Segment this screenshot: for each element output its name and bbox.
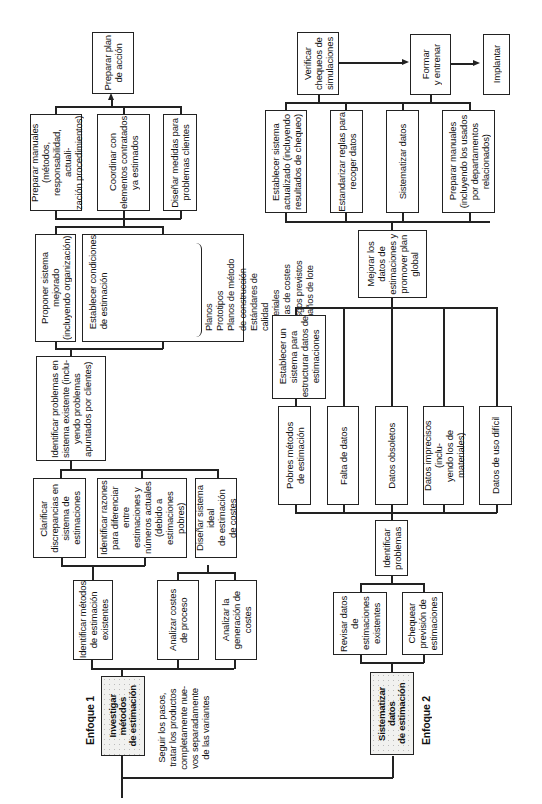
problem-obsolete-data-box: Datos obsoletos [375,406,408,505]
connector [496,307,498,406]
connector [345,212,347,222]
establish-structure-system-box: Establecer un sistema para estructurar d… [272,315,326,399]
connector [180,106,182,114]
connector [285,102,470,104]
connector [177,660,179,669]
connector [391,575,393,584]
implement-box: Implantar [483,34,510,95]
estimation-conditions-box: Establecer condiciones de estimación Pla… [82,234,244,342]
analyze-process-costs-box: Analizar costes de proceso [157,580,199,660]
coordinate-elements-box: Coordinar con elementos contratados ya e… [97,114,150,211]
connector [391,504,393,513]
prepare-manuals-box: Preparar manuales (métodos, responsabili… [30,114,82,211]
standardize-rules-box: Estandarizar reglas para recoger datos [330,110,363,213]
problem-hard-to-use-data-box: Datos de uso difícil [479,406,512,505]
connector [295,512,497,514]
connector [121,777,393,779]
connector [295,398,297,406]
connector [55,226,57,234]
connector [177,572,179,580]
connector [402,212,404,222]
connector [295,307,497,309]
verify-simulations-box: Verificar chequeos de simulaciones [297,32,339,95]
arrow-right-icon [402,59,409,65]
connector [91,660,93,669]
connector [144,557,146,566]
approach1-note: Seguir los pasos, tratar los productos c… [148,678,218,778]
connector [391,664,393,672]
propose-improved-system-box: Proponer sistema mejorado (incluyendo or… [35,234,76,342]
connector [123,210,125,219]
connector [162,226,164,234]
check-estimation-forecast-box: Chequear previsión de estimaciones [402,592,443,655]
problem-poor-methods-box: Pobres métodos de estimación [278,406,311,505]
connector [92,565,94,573]
connector [285,212,287,222]
connector [55,106,57,114]
design-client-measures-box: Diseñar medidas para problemas clientes [163,114,197,211]
connector [61,565,145,567]
train-box: Formar y entrenar [410,34,451,95]
connector [443,504,445,513]
problem-imprecise-data-box: Datos imprecisos (inclu- yendo los de ma… [423,406,464,505]
connector [318,94,320,103]
connector [141,469,143,478]
connector [391,298,393,308]
connector [234,572,236,580]
connector [345,102,347,110]
connector [180,210,182,219]
connector [123,106,125,114]
identify-problems-existing-box: Identificar problemas en sistema existen… [36,356,106,461]
connector [391,222,393,230]
connector [285,221,490,223]
approach1-label: Enfoque 1 [80,690,100,750]
identify-problems-box: Identificar problemas [375,520,408,576]
connector [423,583,425,592]
arrow-right-icon [473,60,480,66]
connector [285,102,287,110]
connector [55,106,181,108]
connector [217,469,219,478]
connector [360,662,424,664]
connector [430,94,432,103]
connector [70,461,72,470]
improve-estimation-data-box: Mejorar los datos de estimaciones y prom… [358,230,427,298]
connector [177,572,235,574]
connector [60,469,218,471]
connector [451,63,474,65]
connector [343,307,345,406]
connector [92,572,94,580]
prepare-action-plan-box: Preparar plan de acción [92,32,134,94]
clarify-discrepancies-box: Clarificar discrepancias en sistema de e… [33,478,86,558]
identify-reasons-box: Identificar razones para diferenciar ent… [97,478,187,558]
connector [392,756,394,778]
connector [55,348,163,350]
problem-lack-of-data-box: Falta de datos [327,406,359,505]
connector [55,226,163,228]
prepare-manuals-dept-box: Preparar manuales (incluyendo los usados… [442,110,495,213]
connector [60,469,62,478]
connector [469,212,471,222]
connector [443,307,445,406]
systematize-data-box: Sistematizar datos [386,110,419,213]
connector [295,504,297,513]
connector [360,655,362,663]
connector [402,102,404,110]
establish-updated-system-box: Establecer sistema actualizado (incluyen… [265,110,307,213]
connector [423,655,425,663]
brace [195,243,202,337]
connector [61,557,63,566]
approach2-start-box: Sistematizar datos de estimación [370,672,414,755]
connector [343,504,345,513]
connector [339,62,403,64]
connector [360,583,362,592]
connector [391,307,393,406]
connector [91,668,234,670]
connector [496,504,498,513]
connector [55,341,57,349]
connector [469,102,471,110]
approach1-start-box: Investigar métodos de estimación [101,676,145,756]
connector [234,660,236,669]
connector [207,565,209,573]
design-ideal-system-box: Diseñar sistema ideal de estimación de c… [195,478,237,558]
